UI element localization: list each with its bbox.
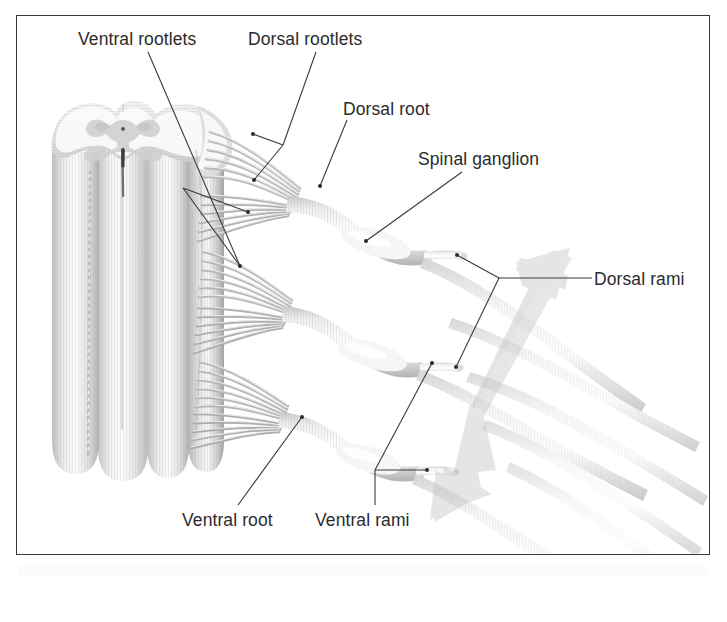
dorsal-ramus-2 xyxy=(420,363,460,374)
label-dorsal-rootlets: Dorsal rootlets xyxy=(248,31,362,49)
leader-dorsal-rootlets-b xyxy=(253,134,283,145)
label-ventral-rami: Ventral rami xyxy=(315,512,410,530)
leader-ventral-rami-b xyxy=(375,363,432,470)
label-ventral-rootlets: Ventral rootlets xyxy=(78,31,196,49)
label-dorsal-root: Dorsal root xyxy=(343,101,430,119)
figure-page: Ventral rootlets Dorsal rootlets Dorsal … xyxy=(0,0,727,622)
label-ventral-root: Ventral root xyxy=(182,512,273,530)
label-dorsal-rami: Dorsal rami xyxy=(594,271,685,289)
leader-spinal-ganglion xyxy=(366,172,462,241)
leader-dorsal-root xyxy=(320,120,347,186)
segment-1-nerve xyxy=(286,196,646,414)
label-spinal-ganglion: Spinal ganglion xyxy=(418,151,539,169)
page-scan-edge xyxy=(18,566,708,575)
leader-dorsal-rami-b xyxy=(457,255,499,278)
leader-dorsal-rootlets xyxy=(283,52,316,145)
